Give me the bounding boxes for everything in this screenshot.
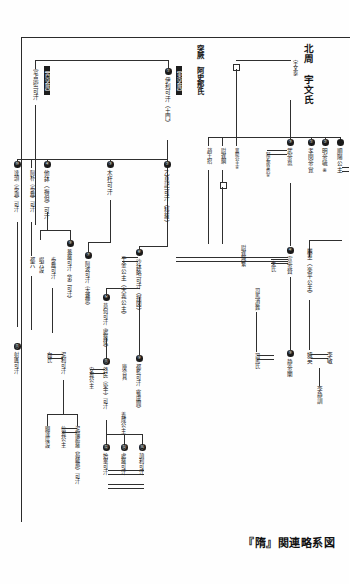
person-li-min: 李敏 <box>326 352 332 364</box>
person-quedadu-she: 闕達度設 <box>44 426 49 447</box>
line-apu-stem <box>31 222 32 256</box>
line-yuchigang-stem <box>222 170 223 182</box>
person-apu-khagan: 阿朴（歩離）可汗 <box>29 170 34 212</box>
marriage-xuandi-zhushi <box>271 259 288 264</box>
seq-badge-datou: ⑩ <box>14 161 21 168</box>
line-eying-limin-child <box>319 368 320 386</box>
person-anluo-khagan: 菴羅可汗（第二可汗） <box>66 249 71 301</box>
person-buli-khagan: 歩離可汗 <box>50 257 55 278</box>
line-drop-quedadu <box>47 414 48 426</box>
line-drop-zhaowangzhao <box>208 137 209 146</box>
line-tabo-stem <box>47 212 48 230</box>
seq-badge-shunyang <box>337 139 344 146</box>
person-dulan-khagan: 都藍可汗（雍虞閭） <box>135 364 140 411</box>
person-yixiji-khagan: 乙息記可汗（科羅） <box>163 170 169 226</box>
person-muhan-khagan: 木杆可汗 <box>106 170 112 195</box>
seq-badge-xieli: ⑭ <box>139 444 146 451</box>
line-zhou-founder-stem <box>290 100 291 138</box>
person-shekui-khagan: 射匱可汗 <box>13 352 18 373</box>
person-xiangyang-gongzhu: 襄陽公主※ <box>234 148 238 170</box>
line-lihua-bus <box>309 240 342 241</box>
person-yuchi-chifan: 尉遅熾繁 <box>240 245 245 266</box>
seq-badge-muhan: ③ <box>107 161 114 168</box>
line-drop-nijue <box>77 414 78 426</box>
person-sima-xiaonan: 司馬消難 <box>254 288 259 309</box>
seq-badge-qimin: ⑪ <box>103 358 110 365</box>
line-turk-top-drop-west <box>35 60 36 69</box>
line-drop-apu <box>31 159 32 168</box>
marriage-nijue-xinyi <box>62 428 77 433</box>
marriage-yicheng-triple-a <box>108 470 144 475</box>
line-lihua-to-eying <box>309 300 310 350</box>
line-nili-children-bus <box>47 414 77 415</box>
seq-badge-chuluo: ⑬ <box>121 444 128 451</box>
line-mohe-bus <box>106 288 140 289</box>
person-yuchi-gang: 尉遅綱 <box>220 148 225 164</box>
person-apo-khagan: 阿波可汗（大邏便） <box>84 261 89 308</box>
line-yuchi-unknown-down <box>222 187 223 244</box>
line-sima-stem <box>256 312 257 352</box>
person-datou-khagan: 達頭（歩迦）可汗 <box>13 170 18 212</box>
marriage-yicheng-triple-b <box>108 484 144 489</box>
line-drop-mohe <box>106 288 107 296</box>
line-zhou-top-spouse <box>236 60 291 61</box>
person-chang-liu-she: 唱六設 <box>38 257 43 273</box>
person-kuhezhen: 庫合真 <box>121 364 126 380</box>
person-yuwen-tai: 宇文泰 <box>292 60 297 76</box>
line-turk-top-bus <box>35 60 168 61</box>
line-buli-stem <box>52 288 53 333</box>
line-zhaowang-down <box>208 170 209 244</box>
seq-badge-tabo: ④ <box>44 161 51 168</box>
seq-badge-anluo: ⑤ <box>67 240 74 247</box>
person-nijue-chuluo-khagan: 泥撮處羅（曷薩那）可汗 <box>74 426 79 483</box>
person-lihua-leping: 麗華（楽平公主） <box>306 248 312 298</box>
seq-badge-apo: ⑦ <box>85 252 92 259</box>
person-xiaomin-di: 孝閔帝覚 <box>307 148 313 173</box>
line-yixiji-children-bus <box>139 246 168 247</box>
person-ashina-empress: 阿史那皇后※ <box>265 152 269 178</box>
person-mingdi: 明帝毓※ <box>321 148 327 173</box>
line-qimin-down <box>106 420 107 434</box>
line-nili-down <box>63 380 64 414</box>
clan-title-northern-zhou: 北周 宇文氏 <box>303 44 313 105</box>
person-ili-khagan-tumen: 伊利可汗（土門） <box>164 77 170 127</box>
person-unknown-square-yuchi <box>220 182 227 189</box>
line-datou-stem <box>17 222 18 327</box>
line-drop-chang-liu-she <box>40 230 41 240</box>
line-xuandi-to-jingdi <box>290 277 291 352</box>
line-wudi-to-xuandi <box>290 183 291 246</box>
marriage-shabolue-qianjin <box>122 257 138 262</box>
marriage-qimin-anyi <box>90 369 105 374</box>
seq-badge-wudi: ③ <box>287 139 294 146</box>
seq-badge-xuandi: ④ <box>287 247 294 254</box>
line-drop-shibi <box>106 434 107 444</box>
line-drop-xiangyang <box>236 137 237 146</box>
line-drop-apo <box>88 242 89 252</box>
group-tag-east-turk: 【東突厥】 <box>176 66 182 95</box>
line-yixiji-stem <box>167 236 168 246</box>
marriage-shunyang <box>342 167 349 172</box>
person-shidianmi-khagan: 室点密可汗 <box>32 69 38 100</box>
person-shibi-khagan: 始畢可汗 <box>102 453 107 474</box>
line-turk-gen2-bus <box>47 159 168 160</box>
line-shabolue-down <box>139 297 140 355</box>
seq-badge-mingdi: ② <box>322 139 329 146</box>
seq-badge-shekui: ⑪ <box>14 343 21 350</box>
group-tag-west-turk: 【西突厥】 <box>44 66 50 95</box>
line-drop-anluo <box>70 230 71 240</box>
line-muhan-children-bus <box>88 242 111 243</box>
marriage-simashi-jingdi <box>257 355 274 360</box>
seq-badge-shabolue: ⑥ <box>136 249 143 256</box>
seq-badge-yixiji: ② <box>164 161 171 168</box>
line-tabo-children-bus <box>40 230 70 231</box>
person-duliu: 都六 <box>29 257 34 267</box>
line-duliu-stem <box>31 276 32 330</box>
person-zhao-wang-zhao: 趙王招 <box>206 148 211 164</box>
line-turk-top-drop-east <box>168 60 169 69</box>
line-drop-xieli <box>142 434 143 444</box>
marriage-wudi-ashina <box>267 150 287 155</box>
line-unknown-square-stem <box>236 69 237 137</box>
line-mohe-down <box>106 338 107 358</box>
person-shunyang-gongzhu: 順陽公主 <box>336 148 342 173</box>
